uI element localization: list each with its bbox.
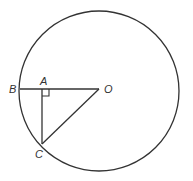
label-a: A — [39, 75, 47, 87]
geometry-diagram: B A O C — [0, 0, 193, 181]
circle — [19, 11, 179, 171]
segment-oc — [42, 89, 99, 144]
label-b: B — [9, 83, 16, 95]
right-angle-marker — [42, 89, 49, 96]
label-o: O — [104, 83, 113, 95]
label-c: C — [35, 148, 43, 160]
